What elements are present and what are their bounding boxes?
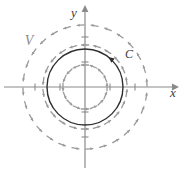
vector-field-label-v: V <box>25 33 35 48</box>
x-axis-label: x <box>169 85 176 100</box>
plot-canvas: y x C V <box>0 0 185 174</box>
vector-field-figure: y x C V <box>0 0 185 174</box>
y-axis-label: y <box>69 5 77 20</box>
curve-label-c: C <box>125 47 134 61</box>
